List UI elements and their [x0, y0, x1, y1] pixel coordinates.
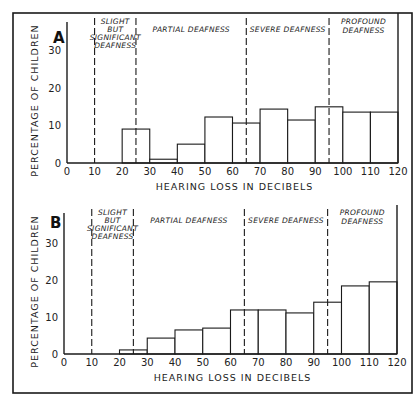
- region-label: SEVERE DEAFNESS: [250, 25, 326, 34]
- x-tick-label: 40: [169, 357, 182, 368]
- panel-label: A: [53, 29, 65, 47]
- histogram-bar: [203, 328, 231, 354]
- region-label: DEAFNESS: [343, 26, 385, 35]
- region-label: PROFOUND: [341, 17, 386, 26]
- x-tick-label: 0: [61, 357, 67, 368]
- region-label: PARTIAL DEAFNESS: [150, 216, 227, 225]
- histogram-bar: [147, 338, 175, 354]
- region-label: DEAFNESS: [94, 41, 136, 50]
- histogram-bar: [177, 144, 205, 163]
- histogram-bar: [286, 313, 314, 354]
- histogram-panel-a: SLIGHTBUTSIGNIFICANTDEAFNESSPARTIAL DEAF…: [29, 13, 408, 192]
- x-axis-title: HEARING LOSS IN DECIBELS: [154, 372, 312, 383]
- y-axis-title: PERCENTAGE OF CHILDREN: [29, 24, 40, 176]
- x-tick-label: 0: [64, 166, 70, 177]
- x-tick-label: 80: [281, 166, 294, 177]
- panel-label: B: [50, 214, 61, 232]
- histogram-figure: SLIGHTBUTSIGNIFICANTDEAFNESSPARTIAL DEAF…: [0, 0, 419, 404]
- x-tick-label: 110: [360, 357, 379, 368]
- x-tick-label: 120: [387, 357, 406, 368]
- x-tick-label: 40: [171, 166, 184, 177]
- x-tick-label: 50: [199, 166, 212, 177]
- histogram-panel-b: SLIGHTBUTSIGNIFICANTDEAFNESSPARTIAL DEAF…: [29, 205, 407, 383]
- histogram-bar: [175, 330, 203, 354]
- y-tick-label: 10: [45, 312, 58, 323]
- x-tick-label: 100: [332, 357, 351, 368]
- histogram-bar: [205, 117, 233, 163]
- x-tick-label: 20: [113, 357, 126, 368]
- x-tick-label: 60: [224, 357, 237, 368]
- y-tick-label: 20: [45, 275, 58, 286]
- region-label: PROFOUND: [340, 208, 385, 217]
- x-tick-label: 100: [333, 166, 352, 177]
- y-axis-title: PERCENTAGE OF CHILDREN: [29, 215, 40, 367]
- histogram-bar: [342, 286, 370, 354]
- region-label: SEVERE DEAFNESS: [248, 216, 324, 225]
- x-tick-label: 90: [309, 166, 322, 177]
- histogram-bar: [343, 112, 371, 163]
- x-tick-label: 90: [307, 357, 320, 368]
- x-tick-label: 70: [254, 166, 267, 177]
- x-tick-label: 10: [88, 166, 101, 177]
- x-tick-label: 50: [196, 357, 209, 368]
- y-tick-label: 20: [48, 83, 61, 94]
- x-tick-label: 80: [280, 357, 293, 368]
- x-tick-label: 120: [388, 166, 407, 177]
- histogram-bar: [258, 310, 286, 354]
- region-label: DEAFNESS: [92, 232, 134, 241]
- x-tick-label: 20: [116, 166, 129, 177]
- x-tick-label: 10: [85, 357, 98, 368]
- x-tick-label: 110: [361, 166, 380, 177]
- x-tick-label: 30: [143, 166, 156, 177]
- histogram-bar: [260, 109, 288, 163]
- y-tick-label: 30: [45, 238, 58, 249]
- histogram-bar: [288, 120, 316, 163]
- x-axis-title: HEARING LOSS IN DECIBELS: [156, 181, 314, 192]
- region-label: PARTIAL DEAFNESS: [152, 25, 229, 34]
- y-tick-label: 0: [55, 158, 61, 169]
- region-label: DEAFNESS: [341, 217, 383, 226]
- x-tick-label: 70: [252, 357, 265, 368]
- x-tick-label: 60: [226, 166, 239, 177]
- y-tick-label: 10: [48, 120, 61, 131]
- histogram-bar: [369, 282, 397, 354]
- histogram-bar: [370, 112, 398, 163]
- y-tick-label: 0: [52, 349, 58, 360]
- x-tick-label: 30: [141, 357, 154, 368]
